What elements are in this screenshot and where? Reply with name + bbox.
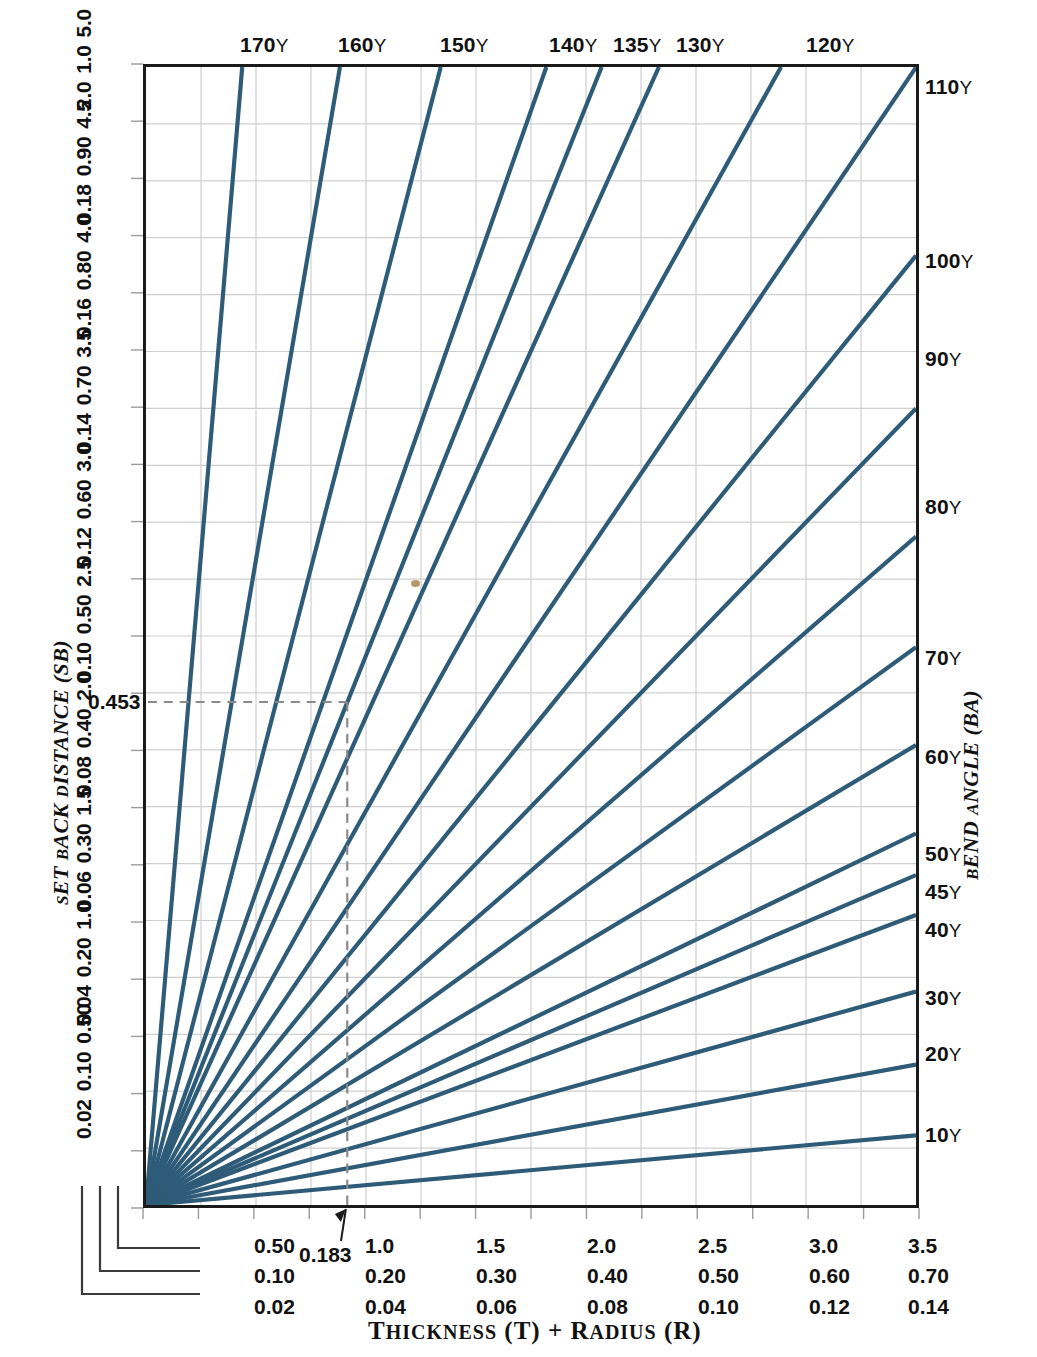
angle-value: 120: [806, 33, 842, 56]
bottom-scale-secondary: 0.40: [587, 1261, 628, 1291]
left-scale-tertiary: 2.5: [72, 558, 96, 586]
degree-symbol-icon: Υ: [949, 882, 962, 903]
plot-area: [143, 64, 919, 1208]
angle-value: 130: [676, 33, 712, 56]
left-scale-secondary: 1.0: [72, 45, 96, 73]
left-scale-group-0: 2.01.05.0: [72, 9, 96, 110]
bottom-scale-tertiary: 0.10: [698, 1292, 739, 1322]
left-scale-secondary: 0.90: [72, 137, 96, 177]
left-scale-tertiary: 4.0: [72, 214, 96, 242]
degree-symbol-icon: Υ: [949, 988, 962, 1009]
degree-symbol-icon: Υ: [585, 35, 598, 56]
bottom-scale-tertiary: 0.12: [809, 1292, 850, 1322]
right-angle-label-30: 30Υ: [925, 987, 962, 1008]
angle-value: 60: [925, 745, 949, 768]
angle-value: 30: [925, 986, 949, 1009]
x-axis-title: THICKNESS (T) + RADIUS (R): [368, 1317, 702, 1345]
angle-value: 100: [925, 249, 961, 272]
bottom-scale-primary: 2.5: [698, 1231, 739, 1261]
left-scale-tertiary: 4.5: [72, 100, 96, 128]
bottom-scale-primary: 1.0: [365, 1231, 406, 1261]
degree-symbol-icon: Υ: [949, 497, 962, 518]
angle-value: 45: [925, 880, 949, 903]
angle-value: 140: [549, 33, 585, 56]
bottom-scale-secondary: 0.60: [809, 1261, 850, 1291]
bottom-scale-group-0: 0.500.100.02: [254, 1231, 295, 1322]
left-scale-tertiary: 3.0: [72, 443, 96, 471]
bottom-scale-group-5: 3.00.600.12: [809, 1231, 850, 1322]
bottom-scale-tertiary: 0.14: [908, 1292, 949, 1322]
right-angle-label-50: 50Υ: [925, 843, 962, 864]
top-angle-label-150: 150Υ: [440, 34, 489, 55]
right-angle-label-70: 70Υ: [925, 647, 962, 668]
degree-symbol-icon: Υ: [476, 35, 489, 56]
callout-arrow-line: [341, 1209, 346, 1241]
left-scale-secondary: 0.10: [72, 1052, 96, 1092]
scan-artifact-speck: [411, 580, 420, 587]
left-scale-secondary: 0.60: [72, 480, 96, 520]
top-angle-label-130: 130Υ: [676, 34, 725, 55]
right-angle-label-20: 20Υ: [925, 1043, 962, 1064]
left-scale-secondary: 0.70: [72, 366, 96, 406]
bottom-scale-secondary: 0.30: [476, 1261, 517, 1291]
angle-value: 110: [925, 75, 959, 98]
right-angle-label-60: 60Υ: [925, 746, 962, 767]
left-scale-group-2: 0.160.804.0: [72, 214, 96, 338]
setback-callout-0453: 0.453: [88, 690, 141, 714]
left-scale-primary: 0.02: [72, 1099, 96, 1139]
left-scale-secondary: 0.40: [72, 709, 96, 749]
left-scale-group-9: 0.020.100.50: [72, 1004, 96, 1139]
angle-value: 20: [925, 1042, 949, 1065]
degree-symbol-icon: Υ: [961, 251, 974, 272]
reference-lines: [146, 67, 916, 1205]
bottom-scale-secondary: 0.50: [698, 1261, 739, 1291]
top-angle-label-135: 135Υ: [613, 34, 662, 55]
degree-symbol-icon: Υ: [842, 35, 855, 56]
left-scale-tertiary: 1.5: [72, 787, 96, 815]
angle-value: 70: [925, 646, 949, 669]
left-scale-secondary: 0.30: [72, 824, 96, 864]
callout-arrow-head-icon: [335, 1209, 346, 1222]
left-scale-secondary: 0.50: [72, 595, 96, 635]
left-scale-tertiary: 1.0: [72, 901, 96, 929]
thickness-callout-0183: 0.183: [299, 1243, 352, 1267]
angle-value: 135: [613, 33, 649, 56]
left-scale-tertiary: 5.0: [72, 9, 96, 37]
angle-value: 10: [925, 1123, 949, 1146]
left-scale-group-7: 0.060.301.5: [72, 787, 96, 911]
bottom-scale-group-1: 1.00.200.04: [365, 1231, 406, 1322]
top-angle-label-170: 170Υ: [240, 34, 289, 55]
left-scale-group-5: 0.100.502.5: [72, 558, 96, 682]
bottom-scale-group-3: 2.00.400.08: [587, 1231, 628, 1322]
bottom-scale-primary: 2.0: [587, 1231, 628, 1261]
left-scale-tertiary: 0.50: [72, 1004, 96, 1044]
top-angle-label-160: 160Υ: [338, 34, 387, 55]
right-angle-label-110: 110Υ: [925, 76, 972, 97]
degree-symbol-icon: Υ: [959, 77, 972, 98]
top-angle-label-140: 140Υ: [549, 34, 598, 55]
bottom-scale-secondary: 0.70: [908, 1261, 949, 1291]
degree-symbol-icon: Υ: [374, 35, 387, 56]
left-scale-secondary: 0.80: [72, 251, 96, 291]
bottom-scale-group-4: 2.50.500.10: [698, 1231, 739, 1322]
left-scale-group-4: 0.120.603.0: [72, 443, 96, 567]
degree-symbol-icon: Υ: [949, 1044, 962, 1065]
bottom-scale-secondary: 0.10: [254, 1261, 295, 1291]
degree-symbol-icon: Υ: [949, 1125, 962, 1146]
right-angle-label-90: 90Υ: [925, 348, 962, 369]
degree-symbol-icon: Υ: [649, 35, 662, 56]
right-angle-label-40: 40Υ: [925, 919, 962, 940]
bottom-scale-group-6: 3.50.700.14: [908, 1231, 949, 1322]
left-scale-group-3: 0.140.703.5: [72, 329, 96, 453]
right-axis-title: BEND ANGLE (BA): [958, 690, 984, 880]
y-axis-title: SET BACK DISTANCE (SB): [48, 640, 74, 905]
bottom-scale-primary: 3.5: [908, 1231, 949, 1261]
angle-value: 90: [925, 347, 949, 370]
right-angle-label-10: 10Υ: [925, 1124, 962, 1145]
bottom-scale-primary: 1.5: [476, 1231, 517, 1261]
angle-value: 40: [925, 918, 949, 941]
left-scale-group-1: 0.180.904.5: [72, 100, 96, 224]
angle-value: 150: [440, 33, 476, 56]
angle-value: 160: [338, 33, 374, 56]
bend-allowance-chart: 170Υ160Υ150Υ140Υ135Υ130Υ120Υ 110Υ100Υ90Υ…: [0, 0, 1037, 1357]
